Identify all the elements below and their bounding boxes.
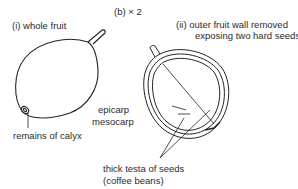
label-mesocarp: mesocarp xyxy=(92,116,134,127)
panel-i-title: (i) whole fruit xyxy=(12,20,66,31)
label-coffee-beans: (coffee beans) xyxy=(103,175,164,186)
whole-fruit-drawing xyxy=(16,30,106,128)
panel-ii-title-line1: (ii) outer fruit wall removed xyxy=(176,19,288,30)
opened-fruit-drawing xyxy=(144,45,229,158)
label-thick-testa: thick testa of seeds xyxy=(103,163,184,174)
panel-ii-title-line2: exposing two hard seeds xyxy=(195,30,298,41)
figure-heading: (b) × 2 xyxy=(114,6,142,17)
label-remains-of-calyx: remains of calyx xyxy=(13,130,82,141)
label-epicarp: epicarp xyxy=(98,104,129,115)
